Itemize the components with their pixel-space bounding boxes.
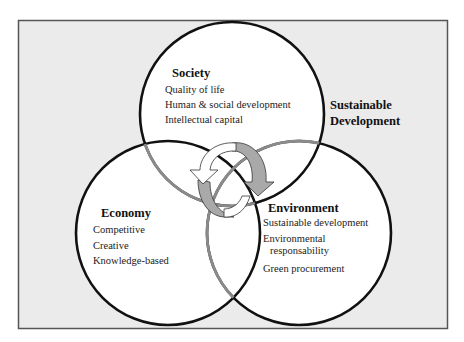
society-item: Human & social development [165, 98, 291, 112]
economy-item: Knowledge-based [93, 254, 169, 268]
society-item: Quality of life [165, 83, 224, 97]
environment-item: Green procurement [263, 262, 344, 276]
environment-item: responsability [270, 244, 329, 258]
venn-diagram [0, 0, 464, 342]
diagram-title-line1: Sustainable [330, 98, 392, 113]
economy-item: Competitive [93, 223, 145, 237]
society-heading: Society [172, 66, 210, 81]
diagram-title-line2: Development [330, 114, 400, 129]
environment-item: Sustainable development [263, 216, 368, 230]
economy-heading: Economy [101, 206, 151, 221]
society-item: Intellectual capital [165, 113, 243, 127]
economy-item: Creative [93, 239, 129, 253]
environment-heading: Environment [268, 201, 339, 216]
